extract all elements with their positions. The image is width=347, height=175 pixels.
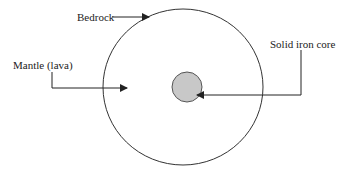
mantle-arrow — [52, 72, 127, 88]
core-arrow — [197, 50, 301, 95]
mantle-label: Mantle (lava) — [13, 59, 73, 71]
bedrock-label: Bedrock — [77, 11, 114, 23]
iron-core-circle — [172, 72, 202, 102]
earth-diagram — [0, 0, 347, 175]
core-label: Solid iron core — [270, 38, 335, 50]
